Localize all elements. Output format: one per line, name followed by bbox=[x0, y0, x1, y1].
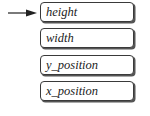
stack-item-label: width bbox=[46, 30, 74, 47]
stack-pointer-arrow-icon bbox=[8, 9, 38, 17]
stack-item: x_position bbox=[40, 81, 134, 101]
stack-item-label: y_position bbox=[46, 57, 98, 74]
stack-item: height bbox=[40, 2, 134, 22]
stack-item: width bbox=[40, 28, 134, 48]
stack-item-label: height bbox=[46, 4, 77, 21]
stack-item-label: x_position bbox=[46, 83, 98, 100]
stack-item: y_position bbox=[40, 55, 134, 75]
